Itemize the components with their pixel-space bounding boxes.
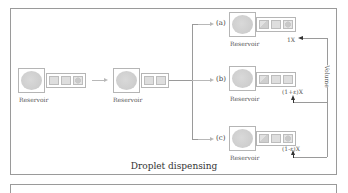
droplet-cell [259, 75, 269, 84]
droplet-blob [232, 129, 253, 148]
droplet-blob [232, 69, 253, 88]
droplet-chain-source [46, 73, 86, 88]
next-panel [10, 184, 337, 193]
branch-tag-b: (b) [216, 75, 226, 83]
droplet-chain-b [256, 72, 296, 87]
diagram-caption: Droplet dispensing [0, 161, 348, 171]
branch-arrow-b [192, 80, 210, 81]
droplet-cell [283, 75, 293, 84]
droplet-cell [283, 134, 293, 143]
droplet-cell [259, 20, 269, 29]
droplet-chain-c [256, 131, 296, 146]
reservoir-a [229, 12, 256, 37]
volume-label-b: (1+ε)X [282, 88, 303, 95]
reservoir-label: Reservoir [230, 95, 259, 102]
branch-trunk [192, 24, 193, 140]
volume-feed-a [302, 38, 327, 39]
arrowhead-up-icon [291, 150, 295, 155]
reservoir-label: Reservoir [19, 96, 48, 103]
volume-axis-label: Volume [323, 65, 332, 87]
branch-arrow-c [198, 139, 210, 140]
droplet-cell [73, 76, 83, 85]
volume-axis-line [327, 38, 328, 157]
reservoir-middle [113, 68, 140, 93]
branch-tag-a: (a) [216, 19, 226, 27]
reservoir-source [18, 68, 45, 93]
branch-tag-c: (c) [216, 134, 225, 142]
branch-arrow-a [198, 24, 210, 25]
droplet-cell [283, 20, 293, 29]
droplet-cell [271, 134, 281, 143]
droplet-cell [144, 76, 154, 85]
droplet-cell [49, 76, 59, 85]
volume-feed-c [293, 157, 327, 158]
droplet-cell [156, 76, 166, 85]
reservoir-b [229, 66, 256, 91]
volume-feed-b [293, 102, 327, 103]
droplet-blob [116, 71, 137, 90]
droplet-blob [21, 71, 42, 90]
droplet-chain-middle [141, 73, 169, 88]
branch-connector [169, 80, 192, 81]
droplet-chain-a [256, 17, 296, 32]
reservoir-label: Reservoir [230, 40, 259, 47]
arrowhead-up-icon [291, 95, 295, 100]
droplet-cell [61, 76, 71, 85]
droplet-cell [259, 134, 269, 143]
droplet-cell [271, 75, 281, 84]
reservoir-c [229, 126, 256, 151]
arrowhead-left-icon [298, 36, 303, 40]
droplet-cell [271, 20, 281, 29]
flow-arrow [92, 80, 104, 81]
reservoir-label: Reservoir [113, 96, 142, 103]
volume-label-a: 1X [287, 36, 295, 43]
reservoir-label: Reservoir [230, 154, 259, 161]
droplet-blob [232, 15, 253, 34]
